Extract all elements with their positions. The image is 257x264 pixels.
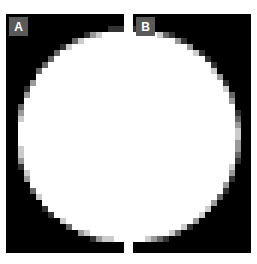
image-panel-a[interactable]: A [6,14,124,253]
panel-a-raster [6,14,124,253]
panel-label-badge-a: A [9,17,28,36]
panel-label-text-b: B [141,21,150,33]
image-panel-b[interactable]: B [133,14,251,253]
panel-b-raster [133,14,251,253]
panel-label-text-a: A [14,21,23,33]
figure-container: A B [0,0,257,264]
panel-label-badge-b: B [136,17,155,36]
